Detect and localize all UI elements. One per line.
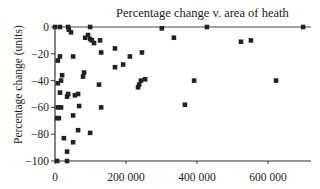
data-point	[69, 30, 74, 35]
data-point	[160, 26, 165, 31]
data-point	[249, 38, 254, 43]
data-point	[58, 90, 63, 95]
data-point	[71, 140, 76, 145]
data-point	[113, 65, 118, 70]
data-point	[88, 25, 93, 30]
data-point	[71, 54, 76, 59]
data-point	[99, 105, 104, 110]
data-point	[121, 62, 126, 67]
y-tick-label: −100	[25, 155, 49, 167]
data-point	[60, 73, 65, 78]
data-point	[113, 46, 118, 51]
data-point	[77, 104, 82, 109]
data-point	[58, 54, 63, 59]
data-point	[98, 38, 103, 43]
data-point	[92, 41, 97, 46]
data-point	[65, 149, 70, 154]
data-point	[59, 105, 64, 110]
data-point	[99, 50, 104, 55]
data-point	[274, 78, 279, 83]
x-tick-label: 600 000	[249, 171, 287, 183]
data-point	[88, 131, 93, 136]
data-point	[128, 54, 133, 59]
data-point	[86, 33, 91, 38]
data-point	[76, 128, 81, 133]
y-tick-label: −60	[31, 101, 49, 113]
data-point	[81, 74, 86, 79]
data-point	[65, 159, 70, 164]
scatter-chart: Percentage change v. area of heath Perce…	[0, 0, 320, 189]
y-tick-label: −40	[31, 75, 49, 87]
data-point	[139, 78, 144, 83]
y-tick-label: −80	[31, 128, 49, 140]
data-point	[82, 70, 87, 75]
data-point	[183, 102, 188, 107]
x-tick-label: 400 000	[178, 171, 216, 183]
data-point	[65, 94, 70, 99]
data-points	[53, 25, 306, 164]
data-point	[76, 92, 81, 97]
data-point	[97, 82, 102, 87]
data-point	[62, 136, 67, 141]
x-tick-label: 200 000	[107, 171, 145, 183]
data-point	[239, 39, 244, 44]
y-tick-label: −20	[31, 48, 49, 60]
data-point	[205, 25, 210, 30]
data-point	[143, 77, 148, 82]
data-point	[136, 85, 141, 90]
data-point	[55, 159, 60, 164]
data-point	[172, 35, 177, 40]
data-point	[192, 78, 197, 83]
y-tick-label: 0	[43, 21, 49, 33]
data-point	[56, 81, 61, 86]
data-point	[140, 50, 145, 55]
data-point	[58, 25, 63, 30]
data-point	[53, 25, 58, 30]
data-point	[301, 25, 306, 30]
plot-area: 0−20−40−60−80−1000200 000400 000600 000	[0, 0, 320, 189]
data-point	[56, 58, 61, 63]
data-point	[71, 113, 76, 118]
data-point	[57, 116, 62, 121]
x-tick-label: 0	[52, 171, 58, 183]
